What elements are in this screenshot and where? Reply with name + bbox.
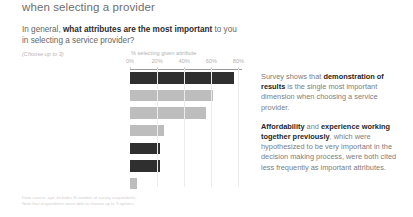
bar-chart: 0%20%40%60%80% Demonstration of resultsC…: [0, 58, 246, 188]
x-tick-label: 40%: [179, 58, 190, 64]
bar: [130, 90, 213, 101]
chart-row: National reputation: [0, 123, 246, 141]
gridline: [238, 69, 239, 187]
x-tick-label: 0%: [126, 58, 134, 64]
commentary-text: and: [305, 122, 321, 131]
bar: [130, 125, 164, 136]
commentary-emphasis: Affordability: [261, 122, 305, 131]
bar: [130, 143, 160, 154]
question-lead: In general,: [22, 25, 63, 34]
commentary-text: Survey shows that: [261, 72, 323, 81]
bar: [130, 160, 160, 171]
chart-row: Demonstration of results: [0, 70, 246, 88]
x-axis-ticks: 0%20%40%60%80%: [0, 58, 246, 67]
chart-row: Affordability of services: [0, 140, 246, 158]
bar: [130, 178, 137, 189]
question-text: In general, what attributes are the most…: [22, 24, 242, 47]
gridline: [211, 69, 212, 187]
question-emphasis: what attributes are the most important: [63, 25, 212, 34]
gridline: [157, 69, 158, 187]
choose-up-to-note: (Choose up to 3): [22, 51, 64, 57]
chart-row: Previous work together: [0, 158, 246, 176]
commentary-panel: Survey shows that demonstration of resul…: [261, 72, 407, 182]
footnote-line-2: Note that respondents were able to choos…: [22, 201, 252, 207]
footnote: Data source: xyz; includes N number of s…: [22, 195, 252, 206]
page-title: when selecting a provider: [22, 1, 155, 13]
x-tick-label: 80%: [233, 58, 244, 64]
chart-row: Content expertise: [0, 88, 246, 106]
chart-row: Local knowledge: [0, 105, 246, 123]
bar: [130, 72, 234, 83]
bar: [130, 107, 206, 118]
axis-caption: % selecting given attribute: [131, 50, 196, 56]
gridline: [184, 69, 185, 187]
x-tick-label: 60%: [206, 58, 217, 64]
slide: when selecting a provider In general, wh…: [0, 0, 413, 217]
x-tick-label: 20%: [151, 58, 162, 64]
commentary-paragraph: Affordability and experience working tog…: [261, 122, 407, 173]
commentary-paragraph: Survey shows that demonstration of resul…: [261, 72, 407, 113]
chart-row: Colleague recommendation: [0, 176, 246, 194]
bar-rows: Demonstration of resultsContent expertis…: [0, 70, 246, 193]
